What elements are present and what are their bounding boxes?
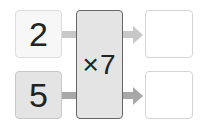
arrow-bottom-shaft: [123, 92, 133, 99]
input-value-top: 2: [29, 15, 48, 54]
output-box-bottom[interactable]: [145, 71, 193, 119]
input-value-bottom: 5: [29, 76, 48, 115]
output-box-top[interactable]: [145, 10, 193, 58]
arrow-top-shaft: [123, 31, 133, 38]
input-box-top: 2: [15, 10, 62, 58]
operation-label: ×7: [83, 49, 117, 81]
arrow-right-icon: [133, 87, 143, 105]
input-box-bottom: 5: [15, 71, 62, 119]
connector-top-in: [62, 31, 76, 38]
connector-bottom-in: [62, 92, 76, 99]
operation-box: ×7: [76, 10, 123, 119]
arrow-right-icon: [133, 26, 143, 44]
